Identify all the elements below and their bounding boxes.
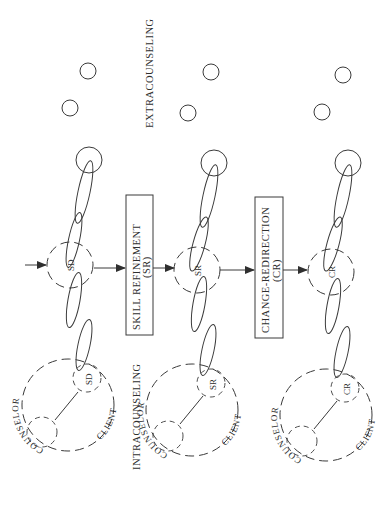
counselor-arc-label: COUNSELOR (10, 396, 45, 456)
link-ellipse (330, 163, 355, 228)
bond-line (180, 396, 203, 424)
link-ellipse (71, 159, 96, 224)
link-ellipse (196, 163, 221, 228)
client-arc-label: CLIENT (94, 407, 118, 442)
link-ellipse (320, 215, 346, 272)
transition-label: CHANGE-REDIRECTION (260, 207, 271, 333)
link-ellipse (186, 215, 212, 272)
link-ellipse (331, 325, 354, 378)
extra-circle (180, 105, 196, 121)
extra-circle (62, 100, 78, 116)
link-ellipse (63, 271, 85, 328)
transition-change-redirection: CHANGE-REDIRECTION (CR) (255, 197, 283, 338)
transition-abbrev: (SR) (141, 256, 153, 278)
outcome-circle (335, 150, 361, 176)
transition-skill-refinement: SKILL REFINEMENT (SR) (126, 195, 153, 335)
client-arc-label: CLIENT (219, 413, 243, 448)
link-ellipse (188, 275, 210, 332)
phase-cr: CR CR COUNSELOR CLIENT (269, 67, 377, 466)
transition-abbrev: (CR) (271, 259, 283, 282)
client-arc-label: CLIENT (353, 418, 377, 453)
extra-circle (335, 67, 351, 83)
phase-sd: SD SD COUNSELOR CLIENT (10, 63, 118, 456)
client-inner-label: SD (84, 373, 94, 385)
client-inner-label: SR (208, 379, 218, 390)
link-ellipse (197, 323, 220, 376)
phase-node-label: SR (193, 265, 203, 276)
client-inner-label: CR (342, 383, 352, 395)
outcome-circle (201, 150, 227, 176)
extra-circle (80, 63, 96, 79)
outcome-circle (76, 147, 102, 173)
phase-node-label: CR (327, 266, 337, 278)
extracounseling-label: EXTRACOUNSELING (144, 18, 155, 128)
phase-node-label: SD (66, 259, 76, 271)
link-ellipse (322, 277, 344, 334)
bond-line (55, 392, 78, 420)
link-ellipse (73, 318, 96, 371)
counseling-phase-diagram: EXTRACOUNSELING INTRACOUNSELING SD SD CO… (0, 0, 392, 505)
bond-line (314, 401, 337, 429)
extra-circle (314, 104, 330, 120)
extra-circle (203, 64, 219, 80)
counselor-arc-label: COUNSELOR (269, 406, 303, 466)
